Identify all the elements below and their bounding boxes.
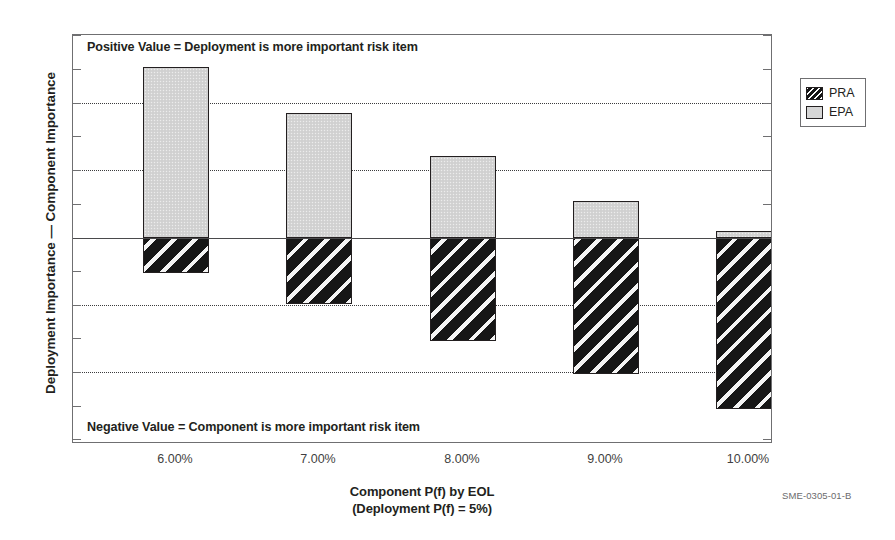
bar-segment-epa[interactable]: [143, 67, 209, 238]
bar-segment-pra[interactable]: [573, 238, 639, 374]
plot-inner: Positive Value = Deployment is more impo…: [73, 35, 771, 442]
axis-tick: [73, 305, 81, 306]
bar-segment-pra[interactable]: [143, 238, 209, 273]
axis-tick: [763, 69, 771, 70]
axis-tick: [73, 439, 81, 440]
axis-tick: [73, 338, 81, 339]
x-axis-title-line1: Component P(f) by EOL: [72, 483, 772, 500]
x-tick-label: 8.00%: [402, 452, 522, 466]
axis-tick: [763, 35, 771, 36]
x-axis-title: Component P(f) by EOL (Deployment P(f) =…: [72, 483, 772, 517]
bar-segment-pra[interactable]: [716, 238, 771, 409]
bar-segment-pra[interactable]: [286, 238, 352, 304]
bar-segment-epa[interactable]: [286, 113, 352, 238]
axis-tick: [73, 103, 81, 104]
bar-segment-epa[interactable]: [430, 156, 496, 238]
plot-area: Positive Value = Deployment is more impo…: [72, 34, 772, 443]
zero-axis-line: [73, 238, 771, 239]
axis-tick: [73, 372, 81, 373]
axis-tick: [73, 204, 81, 205]
axis-tick: [763, 204, 771, 205]
legend-item[interactable]: EPA: [806, 103, 860, 121]
axis-tick: [763, 103, 771, 104]
annotation-negative-value: Negative Value = Component is more impor…: [87, 420, 420, 434]
legend-item[interactable]: PRA: [806, 84, 860, 102]
figure-id-label: SME-0305-01-B: [782, 490, 851, 501]
axis-tick: [73, 69, 81, 70]
x-tick-label: 7.00%: [258, 452, 378, 466]
legend-label: PRA: [829, 87, 855, 100]
x-tick-label: 10.00%: [688, 452, 808, 466]
x-tick-label: 9.00%: [545, 452, 665, 466]
axis-tick: [73, 35, 81, 36]
legend-swatch-icon: [806, 87, 823, 100]
bar-segment-epa[interactable]: [716, 231, 771, 238]
axis-tick: [73, 136, 81, 137]
x-axis-title-line2: (Deployment P(f) = 5%): [72, 500, 772, 517]
y-axis-title: Deployment Importance — Component Import…: [30, 8, 70, 458]
axis-tick: [73, 271, 81, 272]
figure-chart: Deployment Importance — Component Import…: [0, 0, 895, 540]
x-axis-tick-labels: 6.00%7.00%8.00%9.00%10.00%: [72, 452, 772, 472]
legend-swatch-icon: [806, 106, 823, 119]
annotation-positive-value: Positive Value = Deployment is more impo…: [87, 40, 418, 54]
axis-tick: [763, 439, 771, 440]
axis-tick: [763, 170, 771, 171]
legend-label: EPA: [829, 106, 853, 119]
bar-segment-pra[interactable]: [430, 238, 496, 341]
bar-segment-epa[interactable]: [573, 201, 639, 238]
x-tick-label: 6.00%: [115, 452, 235, 466]
axis-tick: [73, 170, 81, 171]
legend: PRAEPA: [800, 78, 866, 127]
axis-tick: [763, 136, 771, 137]
axis-tick: [73, 406, 81, 407]
